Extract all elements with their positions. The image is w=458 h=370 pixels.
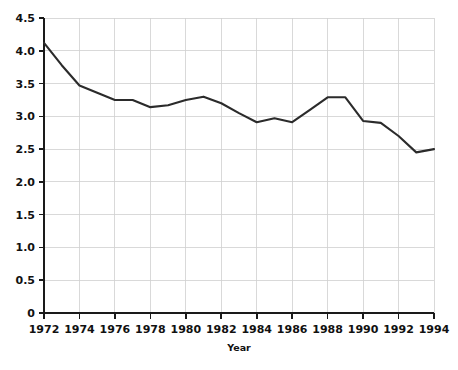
x-tick-label: 1980 — [171, 323, 202, 336]
x-tick-label: 1982 — [206, 323, 237, 336]
y-tick-label: 2.0 — [16, 176, 36, 189]
y-tick-label: 2.5 — [16, 143, 36, 156]
x-tick-label: 1988 — [312, 323, 343, 336]
x-tick-label: 1972 — [29, 323, 60, 336]
y-tick-label: 1.5 — [16, 209, 36, 222]
x-tick-label: 1992 — [383, 323, 414, 336]
footer-caption-sliver — [8, 365, 11, 370]
x-axis-tick-labels: 1972197419761978198019821984198619881990… — [29, 323, 450, 336]
x-tick-label: 1986 — [277, 323, 308, 336]
y-tick-label: 0 — [27, 307, 35, 320]
y-tick-label: 3.0 — [16, 110, 36, 123]
y-tick-label: 3.5 — [16, 78, 36, 91]
horizontal-gridlines — [44, 18, 434, 280]
data-series-line — [44, 43, 434, 152]
x-axis-title: Year — [226, 342, 251, 353]
y-tick-label: 4.0 — [16, 45, 36, 58]
x-tick-label: 1974 — [64, 323, 95, 336]
y-tick-label: 0.5 — [16, 274, 36, 287]
x-tick-label: 1984 — [241, 323, 272, 336]
x-tick-label: 1990 — [348, 323, 379, 336]
x-tick-label: 1978 — [135, 323, 166, 336]
line-chart: 00.51.01.52.02.53.03.54.04.5 19721974197… — [0, 0, 458, 370]
y-axis-tick-labels: 00.51.01.52.02.53.03.54.04.5 — [16, 12, 36, 320]
x-tick-label: 1976 — [100, 323, 131, 336]
chart-canvas: 00.51.01.52.02.53.03.54.04.5 19721974197… — [0, 0, 458, 370]
y-tick-label: 4.5 — [16, 12, 36, 25]
vertical-gridlines — [79, 18, 434, 313]
y-tick-label: 1.0 — [16, 241, 36, 254]
x-tick-label: 1994 — [419, 323, 450, 336]
